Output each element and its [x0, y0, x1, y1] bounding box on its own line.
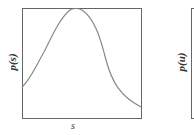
x-axis-label-s: s: [71, 120, 75, 131]
y-axis-label-p-s: p(s): [6, 53, 18, 70]
density-curve-p-s: [0, 0, 194, 135]
plot-area-p-u: [191, 8, 194, 119]
y-axis-label-p-u: p(u): [175, 53, 187, 72]
